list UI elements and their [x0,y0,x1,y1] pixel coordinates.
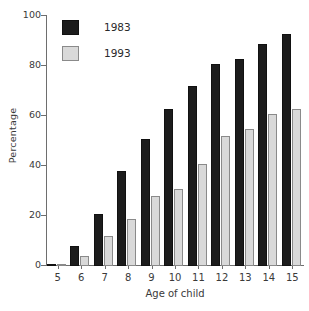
y-tick-label: 0 [5,260,41,269]
bar-group [163,15,186,266]
legend-label: 1993 [104,46,131,61]
x-tick-label: 14 [257,272,281,283]
y-axis-title: Percentage [7,96,18,176]
bar-1983-age-14 [258,44,267,267]
bar-group [210,15,233,266]
legend-label: 1983 [104,20,131,35]
plot-area [46,15,304,266]
bar-1983-age-7 [94,214,103,267]
x-axis-title: Age of child [46,288,304,299]
bar-1993-age-5 [57,264,66,267]
x-tick-label: 9 [140,272,164,283]
bar-1983-age-12 [211,64,220,267]
bar-1993-age-8 [127,219,136,267]
legend-swatch-icon [62,20,79,35]
bar-1983-age-11 [188,86,197,266]
bar-group [257,15,280,266]
y-tick-label: 80 [5,60,41,69]
bar-group [187,15,210,266]
bar-1993-age-11 [198,164,207,267]
y-tick-label: 100 [5,10,41,19]
bar-1993-age-6 [80,256,89,266]
x-tick-label: 8 [116,272,140,283]
bar-1993-age-9 [151,196,160,266]
bar-1983-age-6 [70,246,79,266]
bar-group [140,15,163,266]
bar-1993-age-12 [221,136,230,266]
x-tick-label: 7 [93,272,117,283]
bar-1993-age-10 [174,189,183,267]
x-tick-label: 15 [280,272,304,283]
legend-swatch-icon [62,46,79,61]
bar-group [281,15,304,266]
bar-1983-age-9 [141,139,150,267]
bar-1983-age-10 [164,109,173,267]
x-tick-label: 12 [210,272,234,283]
x-tick-label: 5 [46,272,70,283]
bar-group [234,15,257,266]
x-tick-label: 11 [186,272,210,283]
bar-1993-age-15 [292,109,301,267]
bar-1983-age-8 [117,171,126,266]
x-tick-label: 13 [233,272,257,283]
bar-1993-age-7 [104,236,113,266]
x-tick-label: 10 [163,272,187,283]
bar-chart: 020406080100 Percentage 5678910111213141… [0,0,309,311]
bar-1983-age-15 [282,34,291,267]
bar-1993-age-13 [245,129,254,267]
x-tick-label: 6 [69,272,93,283]
bar-1983-age-5 [47,264,56,267]
y-tick-label: 20 [5,210,41,219]
bar-1983-age-13 [235,59,244,267]
bar-1993-age-14 [268,114,277,267]
